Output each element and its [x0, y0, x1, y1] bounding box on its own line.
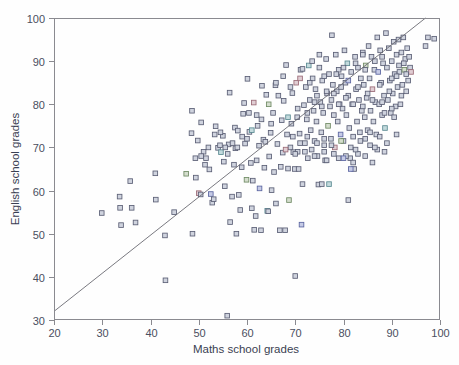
data-point: [307, 80, 312, 85]
data-point: [405, 46, 410, 51]
data-point: [207, 167, 212, 172]
data-point: [353, 55, 358, 60]
data-point: [245, 77, 250, 82]
data-point: [336, 102, 341, 107]
data-point: [394, 74, 399, 79]
data-point: [324, 158, 329, 163]
data-point: [392, 115, 397, 120]
data-point: [309, 147, 314, 152]
data-point: [284, 63, 289, 68]
data-point: [303, 149, 308, 154]
data-point: [315, 93, 320, 98]
data-point: [389, 106, 394, 111]
y-tick-label: 30: [33, 315, 45, 327]
data-point: [384, 31, 389, 36]
data-point: [227, 90, 232, 95]
data-point: [193, 156, 198, 161]
data-point: [330, 33, 335, 38]
data-point: [218, 130, 223, 135]
data-point: [363, 154, 368, 159]
data-point: [291, 134, 296, 139]
data-point: [206, 145, 211, 150]
data-point: [389, 76, 394, 81]
data-point: [300, 182, 305, 187]
data-point: [204, 156, 209, 161]
x-tick-label: 80: [338, 327, 350, 339]
data-point: [266, 102, 271, 107]
data-point: [312, 154, 317, 159]
data-point: [172, 210, 177, 215]
data-point: [133, 220, 138, 225]
data-point: [230, 194, 235, 199]
y-tick-label: 40: [33, 272, 45, 284]
data-point: [285, 132, 290, 137]
data-point: [253, 214, 258, 219]
data-point: [212, 132, 217, 137]
data-point: [239, 165, 244, 170]
data-point: [426, 35, 431, 40]
data-point: [344, 96, 349, 101]
data-point: [382, 149, 387, 154]
data-point: [432, 36, 437, 41]
data-point: [334, 72, 339, 77]
data-point: [163, 233, 168, 238]
data-point: [237, 193, 242, 198]
data-point: [298, 141, 303, 146]
data-point: [268, 130, 273, 135]
data-point: [305, 117, 310, 122]
data-point: [321, 111, 326, 116]
data-point: [317, 52, 322, 57]
data-point: [370, 87, 375, 92]
data-point: [232, 162, 237, 167]
data-point: [394, 52, 399, 57]
data-point: [402, 61, 407, 66]
y-axis-tick-group: 30405060708090100: [27, 13, 54, 327]
data-point: [262, 165, 267, 170]
data-point: [363, 137, 368, 142]
data-point: [386, 98, 391, 103]
data-point: [250, 178, 255, 183]
data-point: [243, 141, 248, 146]
data-point: [317, 65, 322, 70]
data-point: [361, 104, 366, 109]
data-point: [223, 184, 228, 189]
data-point: [332, 113, 337, 118]
data-point: [394, 132, 399, 137]
x-tick-label: 70: [289, 327, 301, 339]
data-point: [327, 182, 332, 187]
data-point-group: [99, 31, 436, 318]
data-point: [404, 89, 409, 94]
data-point: [347, 126, 352, 131]
data-point: [399, 93, 404, 98]
data-point: [250, 206, 255, 211]
data-point: [271, 111, 276, 116]
data-point: [322, 143, 327, 148]
data-point: [310, 59, 315, 64]
data-point: [370, 160, 375, 165]
data-point: [275, 142, 280, 147]
y-tick-label: 90: [33, 56, 45, 68]
data-point: [272, 170, 277, 175]
data-point: [399, 50, 404, 55]
data-point: [385, 141, 390, 146]
data-point: [218, 143, 223, 148]
data-point: [319, 182, 324, 187]
y-tick-label: 70: [33, 142, 45, 154]
data-point: [199, 120, 204, 125]
data-point: [305, 134, 310, 139]
data-point: [353, 61, 358, 66]
data-point: [406, 78, 411, 83]
data-point: [387, 89, 392, 94]
data-point: [225, 152, 230, 157]
x-tick-label: 50: [193, 327, 205, 339]
data-point: [362, 115, 367, 120]
data-point: [128, 179, 133, 184]
data-point: [344, 113, 349, 118]
data-point: [332, 152, 337, 157]
data-point: [365, 91, 370, 96]
data-point: [329, 137, 334, 142]
data-point: [423, 44, 428, 49]
data-point: [274, 80, 279, 85]
data-point: [367, 76, 372, 81]
data-point: [377, 134, 382, 139]
